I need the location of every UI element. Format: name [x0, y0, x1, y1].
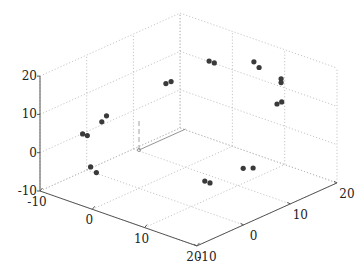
plot-area: -1001020-1001020-1001020: [0, 0, 364, 276]
floor-grid-line: [145, 165, 285, 228]
data-point: [274, 101, 279, 106]
data-point: [104, 113, 109, 118]
back-wall-grid-line: [40, 51, 180, 114]
data-point: [163, 81, 168, 86]
x-tick: [92, 206, 95, 209]
data-point: [99, 119, 104, 124]
scatter3d-chart: -1001020-1001020-1001020: [0, 0, 364, 276]
x-tick-label: 10: [134, 232, 149, 246]
data-point: [257, 65, 262, 70]
y-tick: [334, 181, 337, 183]
data-point: [251, 165, 256, 170]
floor-grid-line: [92, 146, 232, 209]
y-tick-label: 0: [250, 229, 258, 243]
y-tick: [287, 202, 290, 204]
back-wall-grid-line: [40, 13, 180, 76]
data-point: [279, 99, 284, 104]
back-wall-grid-line: [40, 90, 180, 153]
x-tick: [145, 225, 148, 228]
data-point: [241, 166, 246, 171]
data-point: [207, 180, 212, 185]
data-point: [202, 179, 207, 184]
data-point: [212, 60, 217, 65]
data-point: [88, 164, 93, 169]
data-point: [169, 79, 174, 84]
data-point: [80, 131, 85, 136]
y-tick-label: 20: [339, 187, 354, 201]
data-point: [251, 59, 256, 64]
y-tick-label: 10: [293, 208, 308, 222]
data-point: [85, 133, 90, 138]
data-point: [207, 59, 212, 64]
z-tick-label: 10: [22, 107, 37, 121]
y-tick-label: -10: [197, 250, 216, 264]
y-tick: [241, 223, 244, 225]
x-tick-label: 0: [85, 213, 93, 227]
z-tick-label: 0: [29, 146, 37, 160]
y-tick: [194, 244, 197, 246]
back-wall-grid-line: [40, 128, 180, 191]
x-axis-line: [40, 191, 197, 246]
y-axis-line: [197, 183, 337, 246]
data-point: [279, 80, 284, 85]
floor-grid-line: [133, 149, 290, 204]
z-tick-label: 20: [22, 69, 37, 83]
side-wall-grid-line: [180, 13, 337, 68]
x-tick-label: -10: [27, 195, 46, 209]
solid-line: [139, 129, 186, 150]
data-point: [94, 170, 99, 175]
floor-grid-line: [87, 170, 244, 225]
